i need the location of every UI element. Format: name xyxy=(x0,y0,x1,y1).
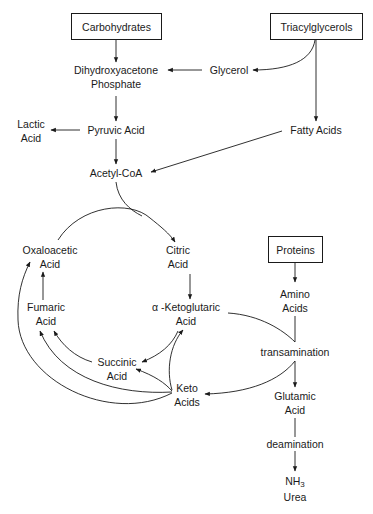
ketoglutaric-line2: Acid xyxy=(152,314,220,328)
amino-line2: Acids xyxy=(280,301,310,315)
pyruvic-acid-node: Pyruvic Acid xyxy=(87,123,144,137)
lactic-line2: Acid xyxy=(17,131,44,145)
fumaric-line2: Acid xyxy=(27,314,65,328)
proteins-label: Proteins xyxy=(276,244,315,256)
urea-node: Urea xyxy=(284,490,307,504)
citric-line2: Acid xyxy=(166,257,190,271)
fatty-acids-label: Fatty Acids xyxy=(290,124,341,136)
pyruvic-label: Pyruvic Acid xyxy=(87,124,144,136)
oxaloacetic-acid-node: OxaloaceticAcid xyxy=(23,243,78,271)
nh3-subscript: 3 xyxy=(300,480,304,489)
keto-line2: Acids xyxy=(174,395,200,409)
citric-line1: Citric xyxy=(166,243,190,257)
amino-line1: Amino xyxy=(280,287,310,301)
triacylglycerols-box: Triacylglycerols xyxy=(270,13,363,40)
keto-acids-node: KetoAcids xyxy=(174,381,200,409)
deamination-label: deamination xyxy=(266,438,323,450)
dhap-line2: Phosphate xyxy=(74,77,158,91)
acetyl-coa-label: Acetyl-CoA xyxy=(90,167,143,179)
succinic-line2: Acid xyxy=(97,369,136,383)
acetyl-coa-node: Acetyl-CoA xyxy=(90,166,143,180)
carbohydrates-box: Carbohydrates xyxy=(71,13,162,40)
deamination-node: deamination xyxy=(266,437,323,451)
oxaloacetic-line2: Acid xyxy=(23,257,78,271)
succinic-line1: Succinic xyxy=(97,355,136,369)
citric-acid-node: CitricAcid xyxy=(166,243,190,271)
nh3-base: NH xyxy=(285,475,300,487)
ketoglutaric-line1: α -Ketoglutaric xyxy=(152,300,220,314)
lactic-acid-node: LacticAcid xyxy=(17,117,44,145)
transamination-node: transamination xyxy=(261,345,330,359)
lactic-line1: Lactic xyxy=(17,117,44,131)
transamination-label: transamination xyxy=(261,346,330,358)
succinic-acid-node: SuccinicAcid xyxy=(97,355,136,383)
dhap-node: DihydroxyacetonePhosphate xyxy=(74,63,158,91)
urea-label: Urea xyxy=(284,491,307,503)
ketoglutaric-acid-node: α -KetoglutaricAcid xyxy=(152,300,220,328)
fumaric-line1: Fumaric xyxy=(27,300,65,314)
dhap-line1: Dihydroxyacetone xyxy=(74,63,158,77)
glutamic-acid-node: GlutamicAcid xyxy=(274,389,315,417)
proteins-box: Proteins xyxy=(268,236,323,263)
glutamic-line1: Glutamic xyxy=(274,389,315,403)
glycerol-label: Glycerol xyxy=(210,64,249,76)
triacylglycerols-label: Triacylglycerols xyxy=(281,21,353,33)
fumaric-acid-node: FumaricAcid xyxy=(27,300,65,328)
amino-acids-node: AminoAcids xyxy=(280,287,310,315)
glutamic-line2: Acid xyxy=(274,403,315,417)
fatty-acids-node: Fatty Acids xyxy=(290,123,341,137)
oxaloacetic-line1: Oxaloacetic xyxy=(23,243,78,257)
carbohydrates-label: Carbohydrates xyxy=(82,21,151,33)
glycerol-node: Glycerol xyxy=(210,63,249,77)
keto-line1: Keto xyxy=(174,381,200,395)
